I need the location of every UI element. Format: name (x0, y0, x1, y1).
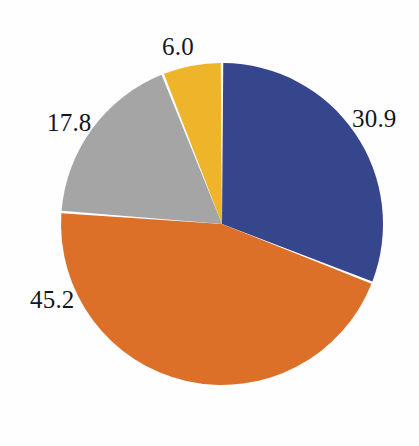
pie-chart-figure: 30.9 45.2 17.8 6.0 (0, 0, 419, 446)
pie-chart-svg (0, 0, 419, 446)
pie-label-orange: 45.2 (30, 287, 75, 312)
pie-label-blue: 30.9 (352, 106, 397, 131)
pie-slice-group (61, 63, 383, 385)
pie-label-yellow: 6.0 (162, 34, 194, 59)
pie-label-gray: 17.8 (47, 110, 92, 135)
